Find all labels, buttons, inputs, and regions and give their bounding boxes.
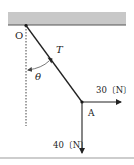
angle-arc (28, 61, 49, 70)
ceiling (8, 12, 126, 25)
rope (26, 26, 82, 103)
label-t: T (56, 44, 64, 55)
label-horizontal-force: 30〔N〕 (96, 85, 132, 95)
label-theta: θ (35, 71, 41, 82)
label-a: A (87, 108, 95, 118)
label-o: O (15, 30, 23, 41)
tension-arrow-icon (48, 58, 53, 64)
force-diagram: O T θ A 30〔N〕 40〔N〕 (0, 0, 134, 165)
label-vertical-force: 40〔N〕 (53, 140, 89, 150)
